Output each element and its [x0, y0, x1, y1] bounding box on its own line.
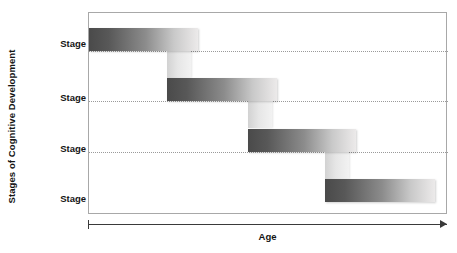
riser-stage-3-to-4 [325, 152, 349, 179]
bar-stage-2[interactable] [167, 78, 277, 101]
x-axis-arrow-icon [440, 220, 447, 228]
riser-stage-1-to-2 [167, 51, 191, 78]
gridline-stage-1 [89, 51, 448, 52]
y-axis-label: Stages of Cognitive Development [0, 0, 22, 253]
x-axis-label: Age [88, 231, 447, 242]
x-axis-line [88, 224, 447, 225]
bar-stage-1[interactable] [89, 28, 198, 51]
bar-stage-3[interactable] [248, 129, 356, 152]
riser-stage-2-to-3 [248, 101, 272, 128]
gridline-stage-3 [89, 152, 448, 153]
bar-stage-4[interactable] [325, 179, 435, 202]
chart-figure: Stages of Cognitive Development Stage 1 … [0, 0, 457, 253]
plot-area [88, 12, 447, 214]
